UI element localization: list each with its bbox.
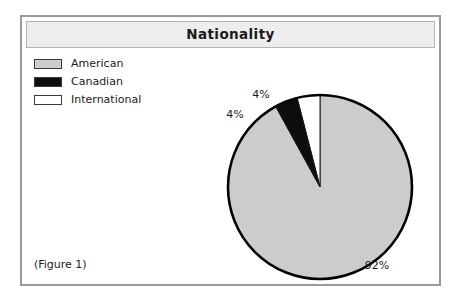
- chart-title: Nationality: [186, 28, 274, 42]
- pie-outline: [228, 95, 412, 279]
- legend-label-american: American: [71, 58, 123, 69]
- pie-slice-international[interactable]: [297, 95, 320, 187]
- chart-legend: American Canadian International: [34, 55, 194, 109]
- legend-swatch-international: [34, 95, 62, 105]
- chart-title-band: Nationality: [26, 21, 435, 48]
- pie-value-label-international: 4%: [252, 88, 269, 101]
- legend-label-canadian: Canadian: [71, 76, 123, 87]
- legend-swatch-canadian: [34, 77, 62, 87]
- pie-value-label-canadian: 4%: [226, 108, 243, 121]
- figure-caption: (Figure 1): [34, 259, 87, 270]
- legend-item-international: International: [34, 91, 194, 108]
- legend-item-american: American: [34, 55, 194, 72]
- legend-label-international: International: [71, 94, 141, 105]
- pie-slice-canadian[interactable]: [276, 98, 320, 187]
- figure-frame: Nationality American Canadian Internatio…: [20, 15, 441, 286]
- pie-slice-labels: 92%4%4%: [226, 88, 389, 272]
- pie-value-label-american: 92%: [365, 259, 389, 272]
- pie-slices: [228, 95, 412, 279]
- legend-item-canadian: Canadian: [34, 73, 194, 90]
- pie-slice-american[interactable]: [228, 95, 412, 279]
- legend-swatch-american: [34, 59, 62, 69]
